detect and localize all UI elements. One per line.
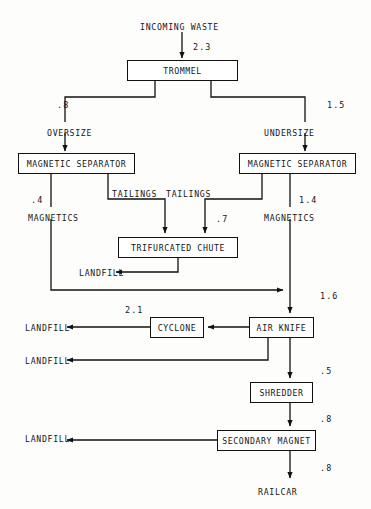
flow-value-val-magnetics-right: 1.4 bbox=[299, 195, 317, 205]
process-box-trifurcated-chute[interactable]: TRIFURCATED CHUTE bbox=[118, 237, 238, 258]
terminal-label-landfill-airknife: LANDFILL bbox=[25, 356, 70, 366]
process-box-trommel[interactable]: TROMMEL bbox=[127, 60, 238, 81]
terminal-label-undersize: UNDERSIZE bbox=[264, 128, 315, 138]
edge-tailings-right-to-chute bbox=[205, 174, 262, 233]
edge-tailings-left-to-chute bbox=[108, 174, 165, 233]
terminal-label-tailings-right: TAILINGS bbox=[166, 189, 211, 199]
flow-value-val-magnet-feed: .8 bbox=[320, 414, 332, 424]
flow-value-val-airknife-feed: 1.6 bbox=[320, 291, 338, 301]
flow-value-val-incoming: 2.3 bbox=[193, 42, 211, 52]
flow-value-val-chute-feed: .7 bbox=[216, 214, 228, 224]
terminal-label-tailings-left: TAILINGS bbox=[112, 189, 157, 199]
process-box-shredder[interactable]: SHREDDER bbox=[250, 382, 313, 403]
flow-value-val-magnetics-left: .4 bbox=[31, 195, 43, 205]
process-box-mag-sep-left[interactable]: MAGNETIC SEPARATOR bbox=[18, 153, 135, 174]
flow-value-val-shredder-feed: .5 bbox=[320, 366, 332, 376]
flow-value-val-oversize: .8 bbox=[57, 100, 69, 110]
terminal-label-landfill-cyclone: LANDFILL bbox=[25, 323, 70, 333]
flow-value-val-cyclone-out: 2.1 bbox=[125, 305, 143, 315]
edge-trommel-to-oversize bbox=[65, 81, 155, 122]
terminal-label-landfill-magnet: LANDFILL bbox=[25, 434, 70, 444]
flow-diagram-canvas: TROMMELMAGNETIC SEPARATORMAGNETIC SEPARA… bbox=[0, 0, 371, 509]
process-box-secondary-magnet[interactable]: SECONDARY MAGNET bbox=[217, 430, 316, 451]
terminal-label-magnetics-left: MAGNETICS bbox=[28, 213, 79, 223]
process-box-air-knife[interactable]: AIR KNIFE bbox=[249, 317, 314, 338]
edge-airknife-to-landfill bbox=[67, 338, 268, 360]
process-box-cyclone[interactable]: CYCLONE bbox=[150, 317, 204, 338]
edge-trommel-to-undersize bbox=[211, 81, 305, 122]
terminal-label-incoming-waste: INCOMING WASTE bbox=[140, 22, 219, 32]
edge-chute-to-landfill bbox=[116, 258, 178, 272]
flow-value-val-railcar: .8 bbox=[320, 463, 332, 473]
terminal-label-landfill-chute: LANDFILL bbox=[79, 268, 124, 278]
terminal-label-magnetics-right: MAGNETICS bbox=[264, 213, 315, 223]
process-box-mag-sep-right[interactable]: MAGNETIC SEPARATOR bbox=[239, 153, 356, 174]
flow-value-val-undersize: 1.5 bbox=[327, 100, 345, 110]
terminal-label-oversize: OVERSIZE bbox=[47, 128, 92, 138]
terminal-label-railcar: RAILCAR bbox=[258, 487, 297, 497]
